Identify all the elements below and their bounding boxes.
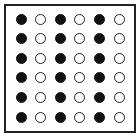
- hollow-dot: [35, 14, 46, 25]
- filled-dot: [94, 14, 105, 25]
- hollow-dot: [35, 112, 46, 123]
- hollow-dot: [74, 14, 85, 25]
- hollow-dot: [114, 72, 125, 83]
- hollow-dot: [74, 112, 85, 123]
- filled-dot: [94, 72, 105, 83]
- hollow-dot: [74, 72, 85, 83]
- filled-dot: [94, 92, 105, 103]
- filled-dot: [16, 92, 27, 103]
- hollow-dot: [114, 33, 125, 44]
- hollow-dot: [74, 92, 85, 103]
- hollow-dot: [35, 53, 46, 64]
- filled-dot: [94, 112, 105, 123]
- filled-dot: [55, 112, 66, 123]
- dot-grid: [0, 0, 139, 136]
- hollow-dot: [35, 33, 46, 44]
- filled-dot: [16, 14, 27, 25]
- filled-dot: [55, 14, 66, 25]
- hollow-dot: [114, 14, 125, 25]
- hollow-dot: [74, 53, 85, 64]
- filled-dot: [94, 33, 105, 44]
- filled-dot: [16, 72, 27, 83]
- filled-dot: [55, 72, 66, 83]
- filled-dot: [16, 53, 27, 64]
- filled-dot: [55, 53, 66, 64]
- hollow-dot: [114, 92, 125, 103]
- hollow-dot: [74, 33, 85, 44]
- filled-dot: [55, 92, 66, 103]
- filled-dot: [16, 112, 27, 123]
- filled-dot: [16, 33, 27, 44]
- filled-dot: [55, 33, 66, 44]
- hollow-dot: [35, 72, 46, 83]
- filled-dot: [94, 53, 105, 64]
- hollow-dot: [35, 92, 46, 103]
- hollow-dot: [114, 53, 125, 64]
- hollow-dot: [114, 112, 125, 123]
